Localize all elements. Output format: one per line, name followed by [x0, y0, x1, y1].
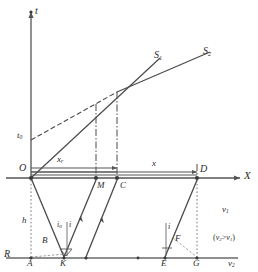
t-axis-label: t	[35, 6, 38, 16]
xr-sub: r	[61, 158, 63, 164]
line-s2-refracted	[31, 52, 210, 140]
ray-ok	[31, 178, 64, 257]
refraction-traveltime-figure: t X t0 S1 S2 O M C D R A K B E F G h xr …	[0, 0, 258, 272]
point-label-k: K	[60, 259, 66, 268]
s1-sub: 1	[159, 54, 162, 61]
point-label-c: C	[120, 181, 126, 190]
line-s2-label: S2	[203, 46, 211, 57]
i0-sub: 0	[59, 224, 61, 229]
point-label-d: D	[200, 164, 207, 174]
point-label-g: G	[193, 259, 200, 268]
x-axis-label: X	[244, 170, 251, 181]
angle-label-i0: i0	[57, 221, 62, 230]
velocity-label-v2: v2	[228, 259, 235, 269]
cond-close: )	[232, 233, 235, 242]
velocity-condition: (v2>v1)	[213, 234, 235, 243]
dimension-x	[31, 172, 197, 175]
point-label-b: B	[42, 236, 48, 245]
point-label-o: O	[19, 163, 26, 173]
point-dots	[29, 10, 199, 259]
point-label-f: F	[175, 234, 181, 243]
distance-label-xr: xr	[57, 155, 63, 165]
intercept-time-label: t0	[17, 131, 22, 141]
depth-label-h: h	[22, 216, 27, 225]
point-label-a: A	[27, 259, 33, 268]
dimension-xr	[31, 168, 117, 172]
diagram-canvas	[0, 0, 258, 272]
s2-sub: 2	[208, 50, 211, 57]
ray-ed	[165, 180, 197, 257]
velocity-label-v1: v1	[222, 205, 229, 215]
point-label-r: R	[4, 249, 10, 259]
angle-label-i-e: i	[168, 223, 170, 231]
distance-label-x: x	[152, 159, 156, 168]
v2-sub: 2	[232, 262, 235, 268]
v1-sub: 1	[226, 208, 229, 214]
angle-label-i-k: i	[69, 221, 71, 229]
guide-ab	[31, 254, 66, 257]
point-label-e: E	[161, 259, 167, 268]
point-label-m: M	[97, 181, 105, 190]
intercept-time-sub: 0	[20, 134, 23, 140]
line-s1-label: S1	[154, 50, 162, 61]
